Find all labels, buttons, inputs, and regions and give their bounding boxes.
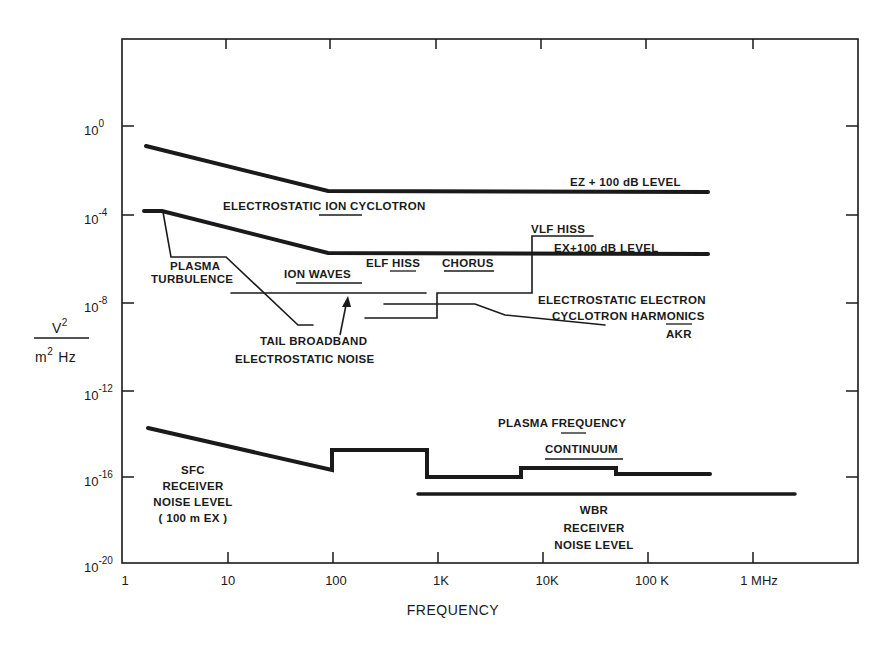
y-tick-1e0: 100 [84,118,104,138]
y-tick-labels: 100 10-4 10-8 10-12 10-16 10-20 [84,118,113,575]
label-electrostatic-noise: ELECTROSTATIC NOISE [235,353,374,365]
x-tick-100: 100 [325,573,347,588]
y-ticks-left [122,126,134,477]
y-tick-1e-4: 10-4 [84,207,108,227]
label-akr: AKR [666,328,692,340]
label-ion-waves: ION WAVES [284,268,351,280]
y-tick-1e-20: 10-20 [84,555,113,575]
label-electrostatic-ion-cyclotron: ELECTROSTATIC ION CYCLOTRON [223,200,426,212]
label-sfc-100m-ex: ( 100 m EX ) [159,512,228,524]
label-wbr: WBR [580,504,609,516]
sfc-noise-line [148,428,710,477]
label-ez-level: EZ + 100 dB LEVEL [570,176,681,188]
svg-text:V2: V2 [52,317,68,336]
y-tick-1e-8: 10-8 [84,295,108,315]
spectral-density-chart: 1 10 100 1K 10K 100 K 1 MHz FREQUENCY 10… [0,0,893,647]
y-tick-1e-12: 10-12 [84,383,113,403]
label-esec-line1: ELECTROSTATIC ELECTRON [538,294,706,306]
x-tick-1mhz: 1 MHz [740,573,778,588]
label-plasma-frequency: PLASMA FREQUENCY [498,417,626,429]
svg-text:m2Hz: m2Hz [35,346,76,365]
y-axis-title: V2 m2Hz [34,317,89,365]
x-tick-10: 10 [221,573,235,588]
x-tick-100k: 100 K [635,573,669,588]
plot-frame [122,39,858,563]
x-ticks-bottom [228,552,753,563]
x-axis-title: FREQUENCY [407,602,500,618]
label-sfc: SFC [181,464,205,476]
label-tail-broadband: TAIL BROADBAND [260,335,367,347]
x-tick-1: 1 [121,573,128,588]
label-turbulence: TURBULENCE [151,273,233,285]
arrow-icon [340,296,351,335]
label-ex-level: EX+100 dB LEVEL [554,242,659,254]
label-wbr-receiver: RECEIVER [563,522,625,534]
y-ticks-right [846,126,858,477]
label-sfc-receiver: RECEIVER [162,480,224,492]
label-vlf-hiss: VLF HISS [531,223,585,235]
label-elf-hiss: ELF HISS [366,257,420,269]
label-sfc-noise-level: NOISE LEVEL [153,496,232,508]
x-ticks-top [226,39,753,49]
label-chorus: CHORUS [442,257,494,269]
x-tick-labels: 1 10 100 1K 10K 100 K 1 MHz [121,573,777,588]
label-continuum: CONTINUUM [545,443,618,455]
label-wbr-noise-level: NOISE LEVEL [554,539,633,551]
label-esec-line2: CYCLOTRON HARMONICS [552,310,705,322]
label-plasma: PLASMA [170,260,220,272]
y-tick-1e-16: 10-16 [84,469,113,489]
x-tick-1k: 1K [433,573,449,588]
x-tick-10k: 10K [535,573,558,588]
